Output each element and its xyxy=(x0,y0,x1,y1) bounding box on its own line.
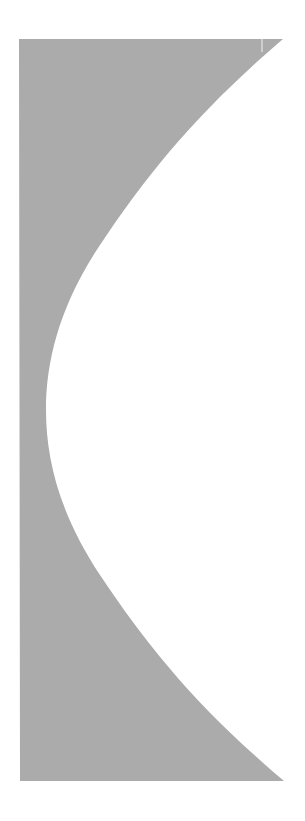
curved-gray-shape xyxy=(19,39,284,781)
figure-canvas xyxy=(0,0,305,821)
